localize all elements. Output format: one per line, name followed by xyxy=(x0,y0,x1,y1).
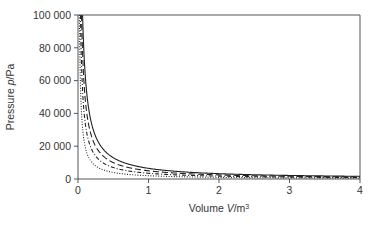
x-axis-label: Volume V/m3 xyxy=(189,202,250,214)
x-tick-label: 4 xyxy=(357,184,363,196)
pressure-volume-chart: 01234 020 00040 00060 00080 000100 000 V… xyxy=(0,0,373,225)
x-tick-label: 1 xyxy=(146,184,152,196)
x-tick-label: 2 xyxy=(216,184,222,196)
y-tick-label: 100 000 xyxy=(33,9,71,21)
x-axis-ticks: 01234 xyxy=(75,179,363,196)
isotherm-curves xyxy=(79,15,360,178)
isotherm-curve-solid xyxy=(83,15,360,176)
y-tick-label: 60 000 xyxy=(39,74,71,86)
y-tick-label: 40 000 xyxy=(39,107,71,119)
x-axis-label-unit: /m xyxy=(234,202,246,214)
x-tick-label: 0 xyxy=(75,184,81,196)
isotherm-curve-dash-dot xyxy=(80,15,360,178)
x-axis-label-sup: 3 xyxy=(245,203,249,210)
y-tick-label: 80 000 xyxy=(39,42,71,54)
y-axis-ticks: 020 00040 00060 00080 000100 000 xyxy=(33,9,78,185)
axes xyxy=(78,15,360,179)
y-tick-label: 0 xyxy=(65,173,71,185)
y-axis-label: Pressure p/Pa xyxy=(4,64,16,131)
y-axis-label-prefix: Pressure xyxy=(4,85,16,130)
y-tick-label: 20 000 xyxy=(39,140,71,152)
isotherm-curve-long-dash xyxy=(82,15,360,177)
y-axis-label-unit: /Pa xyxy=(4,64,16,80)
isotherm-curve-dotted xyxy=(79,15,360,178)
x-axis-label-prefix: Volume xyxy=(189,202,227,214)
x-tick-label: 3 xyxy=(287,184,293,196)
